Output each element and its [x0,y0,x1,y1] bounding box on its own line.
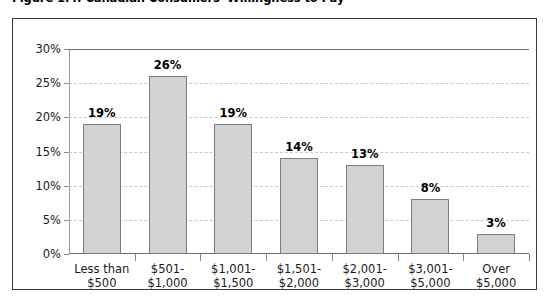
x-axis-label-line: $500 [69,276,135,290]
bar-slot: 8% [398,49,464,254]
x-axis-label-line: $3,001- [398,262,464,276]
bar[interactable] [214,124,252,254]
bar-value-label: 13% [351,147,379,161]
x-axis-category-label: $1,001-$1,500 [200,262,266,290]
x-axis-label-line: $2,001- [332,262,398,276]
y-tick-label: 30% [35,42,61,56]
chart-frame: 0%5%10%15%20%25%30% 19%26%19%14%13%8%3% … [12,18,537,290]
x-axis-label-line: $5,000 [398,276,464,290]
x-axis-separator [266,254,267,261]
x-axis-category-label: $501-$1,000 [135,262,201,290]
bar-value-label: 19% [88,106,116,120]
x-axis-separator [135,254,136,261]
y-tick-label: 25% [35,76,61,90]
bar-value-label: 3% [486,216,506,230]
bar[interactable] [477,234,515,255]
x-axis-separator [529,254,530,261]
bar-slot: 19% [69,49,135,254]
bar-slot: 19% [200,49,266,254]
x-axis-label-line: Over [463,262,529,276]
y-tick-label: 10% [35,179,61,193]
x-axis-label-line: Less than [69,262,135,276]
bar[interactable] [149,76,187,254]
x-axis-category-label: $3,001-$5,000 [398,262,464,290]
bar-slot: 13% [332,49,398,254]
y-tick-label: 5% [43,213,61,227]
bar[interactable] [411,199,449,254]
x-axis-label-line: $5,000 [463,276,529,290]
bar-value-label: 19% [220,106,248,120]
x-axis-label-line: $3,000 [332,276,398,290]
x-axis-category-label: $2,001-$3,000 [332,262,398,290]
x-axis-category-label: Less than$500 [69,262,135,290]
y-tick-label: 15% [35,145,61,159]
figure-title: Figure 1.4: Canadian Consumers' Willingn… [12,0,344,5]
x-axis-separator [398,254,399,261]
bar[interactable] [346,165,384,254]
x-axis-label-line: $501- [135,262,201,276]
plot-area: 0%5%10%15%20%25%30% 19%26%19%14%13%8%3% [69,49,529,254]
bar-slot: 14% [266,49,332,254]
bar[interactable] [83,124,121,254]
x-axis-label-line: $1,501- [266,262,332,276]
y-tick-label: 20% [35,110,61,124]
x-axis-labels: Less than$500$501-$1,000$1,001-$1,500$1,… [69,262,529,296]
bar-value-label: 8% [421,181,441,195]
x-axis-label-line: $1,000 [135,276,201,290]
x-axis-category-label: $1,501-$2,000 [266,262,332,290]
bar[interactable] [280,158,318,254]
x-axis-label-line: $1,001- [200,262,266,276]
bar-slot: 26% [135,49,201,254]
x-axis-separator [463,254,464,261]
bar-slot: 3% [463,49,529,254]
bar-value-label: 14% [285,140,313,154]
bar-value-label: 26% [154,58,182,72]
x-axis-label-line: $2,000 [266,276,332,290]
x-axis-label-line: $1,500 [200,276,266,290]
y-tick-label: 0% [43,247,61,261]
x-axis-separator [332,254,333,261]
x-axis-category-label: Over$5,000 [463,262,529,290]
y-tick-mark [64,254,69,255]
x-axis-separator [200,254,201,261]
